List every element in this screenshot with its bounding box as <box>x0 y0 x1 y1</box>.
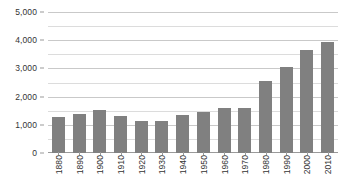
x-axis-tick-label: 1900 <box>95 155 105 174</box>
x-axis-tick-label: 1930 <box>157 155 167 174</box>
bar <box>321 42 334 153</box>
y-axis-tick-label: 4,000 <box>15 35 37 45</box>
x-axis-tick-label: 1990 <box>282 155 292 174</box>
x-axis: 1880189019001910192019301940195019601970… <box>48 155 338 185</box>
y-axis-tick-mark <box>40 153 44 154</box>
bars-layer <box>48 12 338 153</box>
x-axis-tick-label: 1880 <box>54 155 64 174</box>
x-axis-tick-label: 1940 <box>178 155 188 174</box>
bar <box>73 114 86 153</box>
x-axis-tick-label: 2000 <box>302 155 312 174</box>
x-axis-tick-label: 1950 <box>199 155 209 174</box>
y-axis-tick-mark <box>40 96 44 97</box>
bar <box>280 67 293 153</box>
x-axis-tick-label: 1910 <box>116 155 126 174</box>
y-axis-tick-mark <box>40 12 44 13</box>
bar <box>259 81 272 153</box>
x-axis-tick-label: 2010 <box>323 155 333 174</box>
x-axis-tick-label: 1960 <box>220 155 230 174</box>
x-axis-tick-label: 1970 <box>240 155 250 174</box>
bar-chart-figure: 01,0002,0003,0004,0005,000 1880189019001… <box>0 0 346 185</box>
y-axis-tick-label: 2,000 <box>15 92 37 102</box>
bar <box>300 50 313 153</box>
y-axis-tick-label: 1,000 <box>15 120 37 130</box>
bar <box>135 121 148 153</box>
x-axis-tick-label: 1980 <box>261 155 271 174</box>
bar <box>218 108 231 153</box>
y-axis-tick-label: 0 <box>32 148 37 158</box>
y-axis-tick-mark <box>40 124 44 125</box>
bar <box>52 117 65 153</box>
bar <box>93 110 106 153</box>
bar <box>155 121 168 153</box>
bar <box>176 115 189 153</box>
x-axis-tick-label: 1890 <box>75 155 85 174</box>
x-axis-tick-label: 1920 <box>137 155 147 174</box>
bar <box>114 116 127 154</box>
bar <box>197 112 210 153</box>
y-axis-tick-mark <box>40 68 44 69</box>
y-axis-tick-label: 5,000 <box>15 7 37 17</box>
y-axis: 01,0002,0003,0004,0005,000 <box>0 12 44 153</box>
y-axis-tick-label: 3,000 <box>15 63 37 73</box>
y-axis-tick-mark <box>40 40 44 41</box>
bar <box>238 108 251 153</box>
